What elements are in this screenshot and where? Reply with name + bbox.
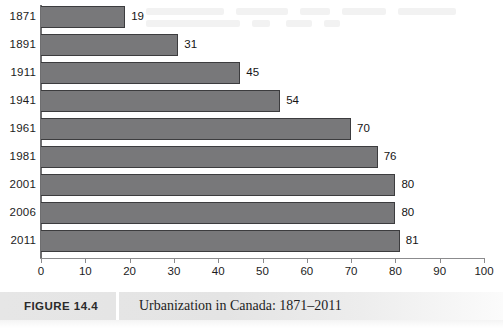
bar: [41, 6, 125, 28]
bar-container: 45: [41, 62, 503, 84]
bar-value-label: 80: [401, 178, 414, 190]
bar-row: 200680: [0, 201, 503, 229]
bar-value-label: 54: [286, 94, 299, 106]
bar-container: 31: [41, 34, 503, 56]
bar: [41, 146, 378, 168]
x-axis-tick-label: 10: [79, 265, 92, 277]
bar-value-label: 80: [401, 206, 414, 218]
bar-category-label: 1891: [0, 38, 41, 50]
x-axis-tick-label: 0: [38, 265, 44, 277]
x-axis-tick-label: 30: [167, 265, 180, 277]
x-axis-tick-label: 20: [123, 265, 136, 277]
bar-row: 201181: [0, 229, 503, 257]
bar: [41, 230, 400, 252]
bar-row: 194154: [0, 89, 503, 117]
x-axis-tick-label: 60: [300, 265, 313, 277]
bar-value-label: 70: [357, 122, 370, 134]
x-axis-tick-label: 50: [256, 265, 269, 277]
bar-row: 200180: [0, 173, 503, 201]
bar-category-label: 1871: [0, 10, 41, 22]
bar-row: 198176: [0, 145, 503, 173]
x-axis-ticks: 0102030405060708090100: [0, 258, 503, 288]
bar-rows: 1871191891311911451941541961701981762001…: [0, 5, 503, 257]
bar-category-label: 2006: [0, 206, 41, 218]
bar: [41, 62, 240, 84]
bar-category-label: 1941: [0, 94, 41, 106]
x-axis-tick-mark: [440, 258, 441, 263]
bar-row: 196170: [0, 117, 503, 145]
bar-container: 81: [41, 230, 503, 252]
x-axis-tick-mark: [351, 258, 352, 263]
bar-row: 187119: [0, 5, 503, 33]
bar-value-label: 81: [406, 234, 419, 246]
bar-container: 76: [41, 146, 503, 168]
x-axis-tick-label: 100: [474, 265, 493, 277]
bar: [41, 90, 280, 112]
bar-container: 80: [41, 174, 503, 196]
x-axis-tick-mark: [307, 258, 308, 263]
x-axis-tick-label: 40: [212, 265, 225, 277]
caption-band-shadow: [0, 320, 503, 328]
bar-category-label: 2001: [0, 178, 41, 190]
bar-category-label: 1911: [0, 66, 41, 78]
bar-row: 191145: [0, 61, 503, 89]
x-axis-tick-mark: [85, 258, 86, 263]
bar-category-label: 1961: [0, 122, 41, 134]
bar-category-label: 1981: [0, 150, 41, 162]
bar: [41, 174, 395, 196]
x-axis-tick-label: 80: [389, 265, 402, 277]
bar-value-label: 45: [246, 66, 259, 78]
bar-container: 80: [41, 202, 503, 224]
bar-category-label: 2011: [0, 234, 41, 246]
x-axis-tick-mark: [41, 258, 42, 263]
bar-value-label: 19: [131, 10, 144, 22]
figure-title: Urbanization in Canada: 1871–2011: [139, 298, 342, 314]
x-axis-tick-label: 90: [433, 265, 446, 277]
bar-container: 19: [41, 6, 503, 28]
bar-chart-plot-area: 1871191891311911451941541961701981762001…: [0, 0, 503, 292]
bar: [41, 118, 351, 140]
x-axis-tick-mark: [174, 258, 175, 263]
bar-container: 54: [41, 90, 503, 112]
x-axis-tick-mark: [484, 258, 485, 263]
figure-chart: 1871191891311911451941541961701981762001…: [0, 0, 503, 292]
bar-value-label: 76: [384, 150, 397, 162]
bar: [41, 202, 395, 224]
bar: [41, 34, 178, 56]
x-axis-tick-mark: [218, 258, 219, 263]
bar-container: 70: [41, 118, 503, 140]
figure-number-label: FIGURE 14.4: [24, 300, 98, 312]
caption-divider: [116, 292, 119, 320]
figure-caption-band: FIGURE 14.4 Urbanization in Canada: 1871…: [0, 292, 503, 320]
x-axis-tick-mark: [395, 258, 396, 263]
bar-row: 189131: [0, 33, 503, 61]
x-axis-tick-label: 70: [345, 265, 358, 277]
bar-value-label: 31: [184, 38, 197, 50]
x-axis-tick-mark: [130, 258, 131, 263]
x-axis-tick-mark: [263, 258, 264, 263]
